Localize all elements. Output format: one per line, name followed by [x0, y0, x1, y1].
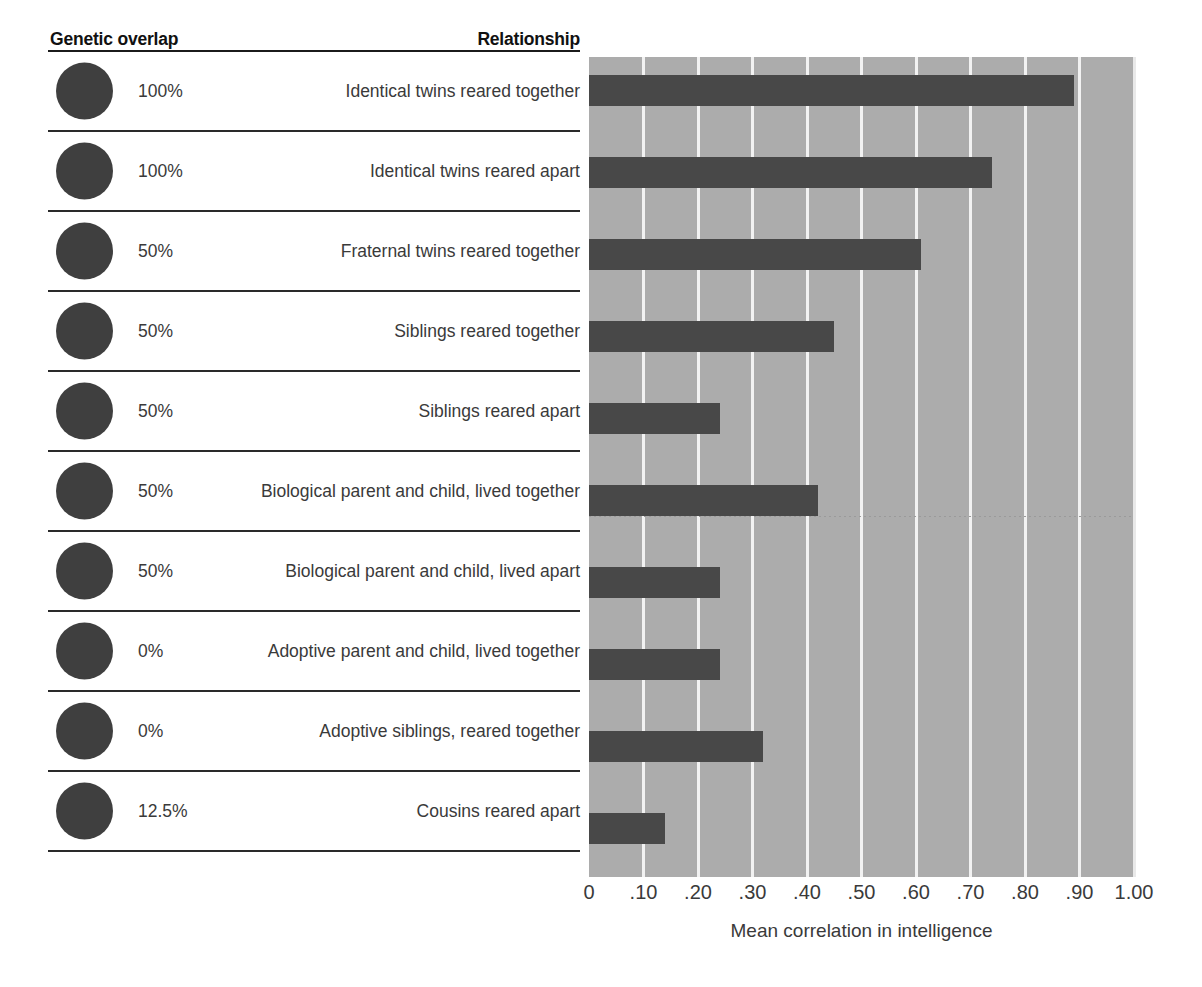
x-axis-tick-label: .90 [1066, 881, 1094, 904]
genetic-overlap-circle-icon [56, 223, 113, 280]
table-row: 50%Biological parent and child, lived to… [48, 452, 580, 532]
table-row-content: 0%Adoptive siblings, reared together [48, 692, 580, 770]
x-axis-tick-label: .50 [848, 881, 876, 904]
table-row-content: 100%Identical twins reared apart [48, 132, 580, 210]
bar-chart [589, 57, 1134, 877]
genetic-overlap-circle-icon [56, 543, 113, 600]
genetic-overlap-circle-icon [56, 623, 113, 680]
bar [589, 567, 720, 598]
relationship-label: Biological parent and child, lived apart [285, 561, 580, 582]
table-row: 50%Fraternal twins reared together [48, 212, 580, 292]
table-row-content: 12.5%Cousins reared apart [48, 772, 580, 850]
table-row-content: 50%Biological parent and child, lived to… [48, 452, 580, 530]
genetic-overlap-value: 12.5% [138, 801, 188, 822]
genetic-overlap-value: 50% [138, 241, 173, 262]
x-axis-tick-label: .20 [684, 881, 712, 904]
table-row-content: 50%Siblings reared apart [48, 372, 580, 450]
genetic-overlap-circle-icon [56, 143, 113, 200]
x-axis-tick-label: .40 [793, 881, 821, 904]
bar [589, 731, 763, 762]
table-row: 50%Siblings reared apart [48, 372, 580, 452]
x-axis-tick-label: 0 [583, 881, 594, 904]
genetic-overlap-circle-icon [56, 703, 113, 760]
relationship-label: Cousins reared apart [417, 801, 580, 822]
relationship-label: Biological parent and child, lived toget… [261, 481, 580, 502]
genetic-overlap-value: 100% [138, 161, 183, 182]
x-axis-tick-label: 1.00 [1115, 881, 1154, 904]
genetic-overlap-value: 100% [138, 81, 183, 102]
genetic-overlap-circle-icon [56, 383, 113, 440]
reference-dotted-line [589, 516, 1134, 517]
bar [589, 403, 720, 434]
table-row-content: 50%Fraternal twins reared together [48, 212, 580, 290]
table-row-content: 50%Biological parent and child, lived ap… [48, 532, 580, 610]
bar [589, 321, 834, 352]
relationship-label: Siblings reared apart [419, 401, 580, 422]
gridline [1133, 57, 1136, 877]
x-axis-tick-label: .30 [739, 881, 767, 904]
x-axis-tick-label: .10 [630, 881, 658, 904]
table-row-content: 100%Identical twins reared together [48, 52, 580, 130]
bar [589, 239, 921, 270]
table-row: 12.5%Cousins reared apart [48, 772, 580, 852]
relationship-label: Identical twins reared together [346, 81, 580, 102]
bar [589, 813, 665, 844]
bar [589, 75, 1074, 106]
x-axis-tick-label: .80 [1011, 881, 1039, 904]
row-divider [48, 850, 580, 852]
table-row: 100%Identical twins reared together [48, 52, 580, 132]
x-axis-title: Mean correlation in intelligence [589, 920, 1134, 942]
plot-area [589, 57, 1134, 877]
genetic-overlap-value: 50% [138, 321, 173, 342]
relationship-label: Fraternal twins reared together [341, 241, 580, 262]
genetic-overlap-circle-icon [56, 63, 113, 120]
genetic-overlap-value: 50% [138, 481, 173, 502]
genetic-overlap-value: 50% [138, 401, 173, 422]
table-row: 50%Siblings reared together [48, 292, 580, 372]
gridline [1078, 57, 1081, 877]
x-axis-tick-label: .60 [902, 881, 930, 904]
table-row: 0%Adoptive siblings, reared together [48, 692, 580, 772]
table-row-content: 0%Adoptive parent and child, lived toget… [48, 612, 580, 690]
relationship-label: Adoptive siblings, reared together [319, 721, 580, 742]
column-header-genetic-overlap: Genetic overlap [50, 29, 178, 50]
genetic-overlap-value: 50% [138, 561, 173, 582]
column-header-relationship: Relationship [477, 29, 580, 50]
gridline [1024, 57, 1027, 877]
x-axis-tick-label: .70 [957, 881, 985, 904]
genetic-overlap-circle-icon [56, 783, 113, 840]
figure-root: Genetic overlap Relationship 100%Identic… [0, 0, 1202, 987]
table-row: 50%Biological parent and child, lived ap… [48, 532, 580, 612]
table-column-headers: Genetic overlap Relationship [48, 20, 580, 50]
bar [589, 649, 720, 680]
genetic-overlap-value: 0% [138, 641, 163, 662]
relationship-label: Siblings reared together [394, 321, 580, 342]
table-row-content: 50%Siblings reared together [48, 292, 580, 370]
table-row: 100%Identical twins reared apart [48, 132, 580, 212]
genetic-overlap-circle-icon [56, 303, 113, 360]
relationship-table: Genetic overlap Relationship 100%Identic… [48, 20, 580, 890]
bar [589, 485, 818, 516]
bar [589, 157, 992, 188]
genetic-overlap-value: 0% [138, 721, 163, 742]
genetic-overlap-circle-icon [56, 463, 113, 520]
relationship-label: Identical twins reared apart [370, 161, 580, 182]
table-rows: 100%Identical twins reared together100%I… [48, 52, 580, 852]
relationship-label: Adoptive parent and child, lived togethe… [268, 641, 580, 662]
table-row: 0%Adoptive parent and child, lived toget… [48, 612, 580, 692]
